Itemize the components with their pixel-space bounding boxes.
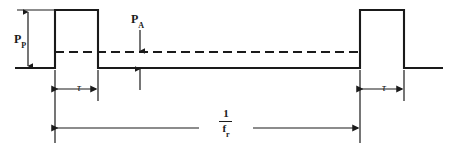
peak-power-subscript: P: [21, 41, 26, 50]
pri-denominator-subscript: r: [226, 130, 230, 139]
average-power-subscript: A: [138, 21, 144, 30]
waveform-pulse-train: [15, 10, 443, 68]
pulse-width-label-right: τ: [382, 82, 386, 93]
pri-numerator: 1: [219, 108, 232, 121]
pulse-repetition-interval-label: 1 fr: [200, 108, 252, 137]
pulse-waveform-figure: PP PA τ τ 1 fr: [0, 0, 457, 151]
pulse-width-label-left: τ: [77, 82, 81, 93]
average-power-label: PA: [131, 13, 144, 28]
pri-denominator: fr: [219, 122, 232, 138]
pri-fraction: 1 fr: [219, 108, 232, 137]
peak-power-label: PP: [14, 33, 26, 48]
